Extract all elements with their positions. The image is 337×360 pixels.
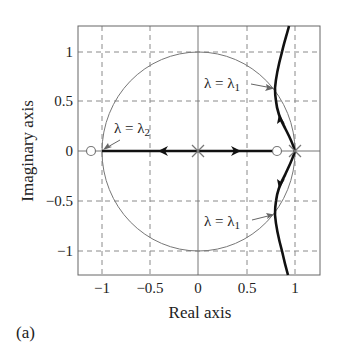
x-tick-label: 0.5: [238, 280, 257, 296]
y-axis-title: Imaginary axis: [18, 100, 37, 202]
y-tick-label: 0: [66, 143, 74, 159]
zero-right: [273, 147, 282, 156]
x-tick-label: −1: [94, 280, 110, 296]
y-tick-label: −1: [57, 243, 73, 259]
x-tick-label: −0.5: [136, 280, 163, 296]
y-tick-label: 0.5: [54, 93, 73, 109]
y-tick-label: 1: [66, 44, 74, 60]
y-tick-label: −0.5: [46, 193, 73, 209]
zero-left: [87, 147, 96, 156]
root-locus-chart: λ = λ1 λ = λ2 λ = λ1 1 0.5 0 −0.5 −1 −1 …: [0, 0, 337, 360]
x-axis-title: Real axis: [169, 303, 232, 322]
x-tick-label: 0: [194, 280, 202, 296]
panel-label: (a): [16, 323, 35, 342]
x-tick-label: 1: [291, 280, 299, 296]
